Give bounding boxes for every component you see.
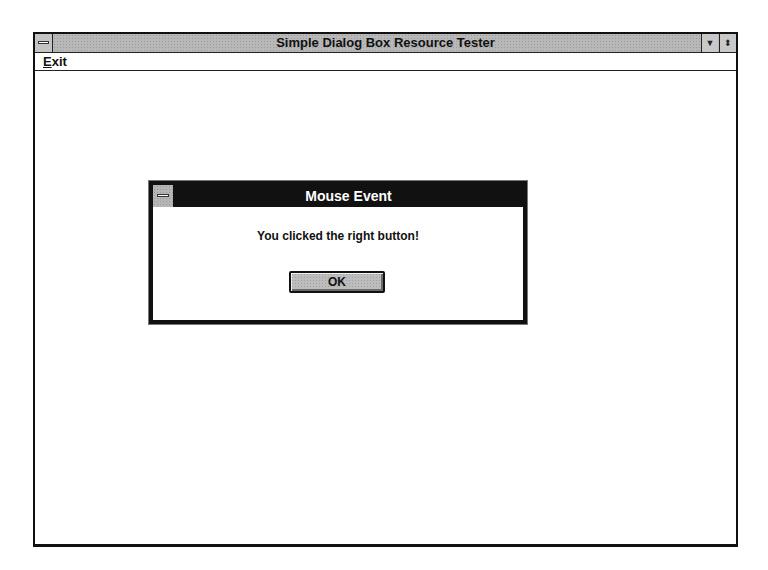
dialog-system-menu-icon [157, 194, 169, 197]
dialog-system-menu-button[interactable] [153, 185, 174, 207]
menu-item-exit[interactable]: Exit [43, 53, 67, 70]
mouse-event-dialog: Mouse Event You clicked the right button… [149, 181, 527, 324]
restore-button[interactable]: ⬍ [719, 34, 736, 52]
menu-bar: Exit [35, 53, 736, 71]
ok-button[interactable]: OK [289, 271, 385, 293]
menu-item-exit-mnemonic: E [43, 54, 52, 69]
restore-icon: ⬍ [724, 38, 732, 48]
dialog-title-bar[interactable]: Mouse Event [153, 185, 523, 207]
menu-item-exit-label: xit [52, 54, 67, 69]
minimize-button[interactable]: ▼ [701, 34, 718, 52]
minimize-icon: ▼ [706, 38, 715, 48]
window-title: Simple Dialog Box Resource Tester [35, 34, 736, 52]
dialog-message: You clicked the right button! [153, 229, 523, 243]
title-bar[interactable]: Simple Dialog Box Resource Tester ▼ ⬍ [35, 34, 736, 53]
dialog-title: Mouse Event [174, 185, 523, 207]
